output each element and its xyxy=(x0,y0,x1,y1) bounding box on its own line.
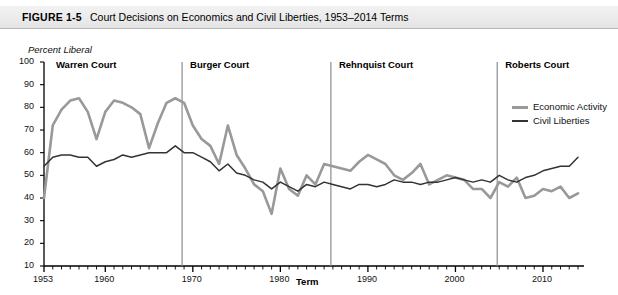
legend-swatch-0 xyxy=(512,106,528,109)
era-label-warren-court: Warren Court xyxy=(56,59,116,70)
chart-series-lines xyxy=(44,98,578,214)
y-tick-90: 90 xyxy=(12,79,34,89)
era-label-roberts-court: Roberts Court xyxy=(505,59,569,70)
y-tick-40: 40 xyxy=(12,192,34,202)
legend-label-economic-activity: Economic Activity xyxy=(533,101,607,112)
y-tick-50: 50 xyxy=(12,169,34,179)
x-axis-label: Term xyxy=(296,276,319,287)
y-tick-80: 80 xyxy=(12,101,34,111)
chart-axes xyxy=(40,62,584,272)
series-economic-activity xyxy=(44,98,578,214)
figure-title-text: Court Decisions on Economics and Civil L… xyxy=(90,11,408,23)
y-tick-60: 60 xyxy=(12,147,34,157)
y-tick-70: 70 xyxy=(12,124,34,134)
y-axis-label: Percent Liberal xyxy=(28,44,92,55)
figure-number-label: FIGURE 1-5 xyxy=(22,11,82,23)
court-era-dividers xyxy=(182,62,497,266)
x-tick-1970: 1970 xyxy=(182,274,202,284)
legend-swatch-1 xyxy=(512,120,528,122)
y-tick-30: 30 xyxy=(12,215,34,225)
x-tick-1960: 1960 xyxy=(94,274,114,284)
era-label-burger-court: Burger Court xyxy=(190,59,249,70)
legend-label-civil-liberties: Civil Liberties xyxy=(533,115,590,126)
y-tick-10: 10 xyxy=(12,260,34,270)
figure-container: FIGURE 1-5 Court Decisions on Economics … xyxy=(0,0,618,295)
y-tick-20: 20 xyxy=(12,237,34,247)
x-tick-1953: 1953 xyxy=(33,274,53,284)
era-label-rehnquist-court: Rehnquist Court xyxy=(339,59,413,70)
chart-plot-area: Percent Liberal Term 1009080706050403020… xyxy=(0,29,618,295)
x-tick-1980: 1980 xyxy=(269,274,289,284)
y-tick-100: 100 xyxy=(12,56,34,66)
x-tick-2010: 2010 xyxy=(532,274,552,284)
x-tick-1990: 1990 xyxy=(357,274,377,284)
x-tick-2000: 2000 xyxy=(444,274,464,284)
